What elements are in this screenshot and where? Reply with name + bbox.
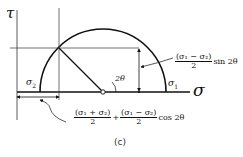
sigma2-label: σ2 — [26, 78, 36, 89]
normal-annotation: (σ₁ + σ₂) 2 + (σ₁ − σ₂) 2 cos 2θ — [73, 109, 184, 127]
shear-foot-dot — [138, 91, 140, 93]
radius-line — [59, 48, 103, 92]
figure-caption: (c) — [114, 137, 126, 147]
center-point — [101, 90, 105, 94]
mohr-circle-figure: τ σ σ2 σ1 2θ (σ₁ − σ₂) 2 sin 2θ (σ₁ + σ₂… — [0, 0, 243, 157]
angle-label: 2θ — [115, 75, 125, 83]
normal-leader — [40, 100, 66, 122]
shear-annotation: (σ₁ − σ₂) 2 sin 2θ — [174, 53, 238, 71]
sigma-axis-label: σ — [193, 82, 205, 99]
tau-axis-label: τ — [6, 6, 14, 21]
angle-arc — [112, 82, 116, 92]
sigma1-label: σ1 — [168, 79, 178, 90]
